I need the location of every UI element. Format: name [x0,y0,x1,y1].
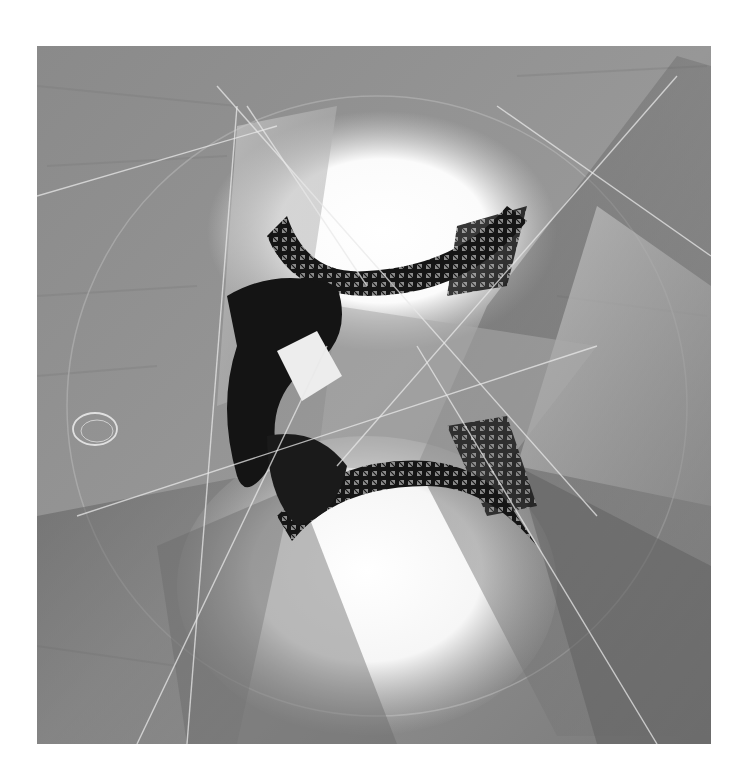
eiffel-tower-artwork [37,46,711,744]
artwork-canvas [37,46,711,744]
